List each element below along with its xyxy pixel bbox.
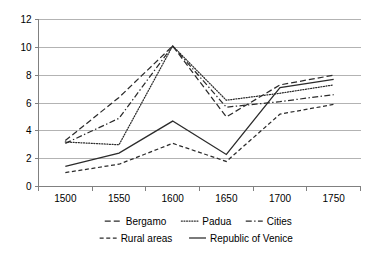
y-tick-label-2: 2 [26, 153, 32, 164]
legend-label-cities: Cities [267, 216, 292, 227]
y-tick-label-0: 0 [26, 181, 32, 192]
y-tick-label-10: 10 [20, 42, 32, 53]
x-tick-label-1550: 1550 [108, 193, 131, 204]
chart-canvas: 024681012 150015501600165017001750 Berga… [0, 0, 374, 259]
series-line-republic-of-venice [65, 79, 333, 166]
chart-legend: BergamoPaduaCitiesRural areasRepublic of… [100, 216, 294, 244]
y-axis-tick-labels: 024681012 [20, 14, 32, 192]
y-tick-label-6: 6 [26, 98, 32, 109]
legend-label-padua: Padua [202, 216, 231, 227]
x-tick-label-1650: 1650 [215, 193, 238, 204]
y-tick-label-4: 4 [26, 125, 32, 136]
x-tick-label-1500: 1500 [54, 193, 77, 204]
series-line-cities [65, 46, 333, 143]
series-lines [65, 46, 333, 173]
x-tick-label-1700: 1700 [269, 193, 292, 204]
line-chart: 024681012 150015501600165017001750 Berga… [0, 0, 374, 259]
series-line-padua [65, 46, 333, 145]
legend-label-republic-of-venice: Republic of Venice [210, 233, 293, 244]
y-tick-label-8: 8 [26, 70, 32, 81]
y-tick-label-12: 12 [20, 14, 32, 25]
legend-label-bergamo: Bergamo [126, 216, 167, 227]
x-axis-tick-labels: 150015501600165017001750 [54, 193, 345, 204]
legend-label-rural-areas: Rural areas [121, 233, 173, 244]
axes [35, 20, 361, 191]
x-tick-label-1600: 1600 [162, 193, 185, 204]
series-line-bergamo [65, 46, 333, 141]
x-tick-label-1750: 1750 [323, 193, 346, 204]
